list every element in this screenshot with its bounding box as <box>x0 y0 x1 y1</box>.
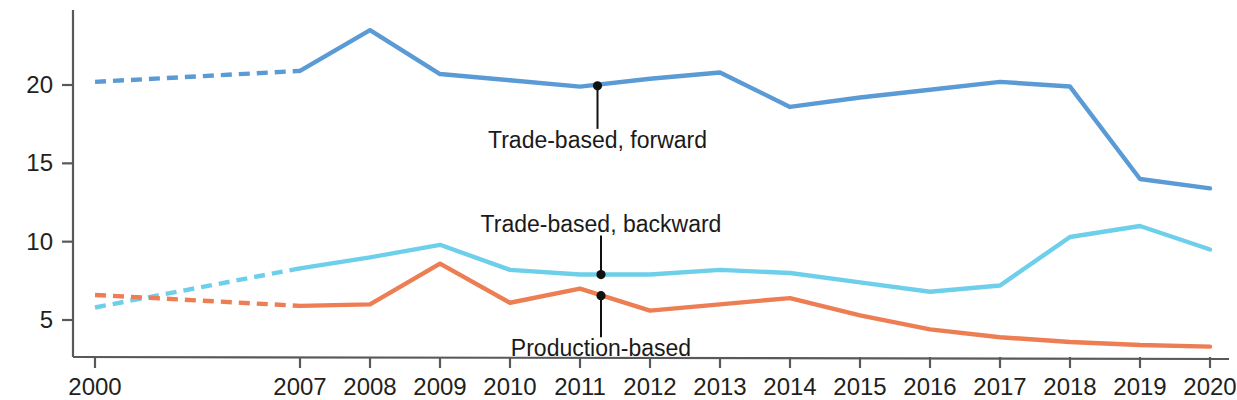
x-axis-tick-label: 2013 <box>693 375 746 399</box>
x-axis-tick-label: 2014 <box>763 375 816 399</box>
series-annotation-1: Trade-based, forward <box>488 129 707 152</box>
x-axis-tick-label: 2008 <box>343 375 396 399</box>
y-axis-tick-label: 5 <box>0 308 53 332</box>
x-axis-tick-label: 2015 <box>833 375 886 399</box>
annotation-anchor-dot <box>593 81 602 90</box>
series-line-solid-0 <box>300 30 1210 188</box>
x-axis-tick-label: 2009 <box>413 375 466 399</box>
annotation-anchor-dot <box>596 270 605 279</box>
x-axis-tick-label: 2018 <box>1043 375 1096 399</box>
annotation-anchor-dot <box>596 291 605 300</box>
y-axis-tick-label: 20 <box>0 73 53 97</box>
x-axis-tick-label: 2000 <box>68 375 121 399</box>
series-line-dashed-1 <box>95 268 300 307</box>
x-axis-tick-label: 2019 <box>1113 375 1166 399</box>
series-line-dashed-2 <box>95 295 300 306</box>
x-axis-tick-label: 2016 <box>903 375 956 399</box>
y-axis-tick-label: 15 <box>0 151 53 175</box>
series-annotation-3: Production-based <box>511 337 691 360</box>
x-axis-tick-label: 2020 <box>1183 375 1236 399</box>
series-line-solid-2 <box>300 264 1210 347</box>
chart-annotation-leaders <box>593 81 606 337</box>
x-axis-tick-label: 2011 <box>554 375 606 399</box>
chart-series <box>95 30 1210 346</box>
x-axis-tick-label: 2012 <box>623 375 676 399</box>
series-line-solid-1 <box>300 226 1210 292</box>
series-annotation-2: Trade-based, backward <box>481 213 722 236</box>
x-axis-tick-label: 2010 <box>483 375 536 399</box>
x-axis-tick-label: 2007 <box>273 375 326 399</box>
chart-axes <box>62 10 1229 368</box>
series-line-dashed-0 <box>95 71 300 82</box>
y-axis-tick-label: 10 <box>0 230 53 254</box>
x-axis-tick-label: 2017 <box>973 375 1026 399</box>
